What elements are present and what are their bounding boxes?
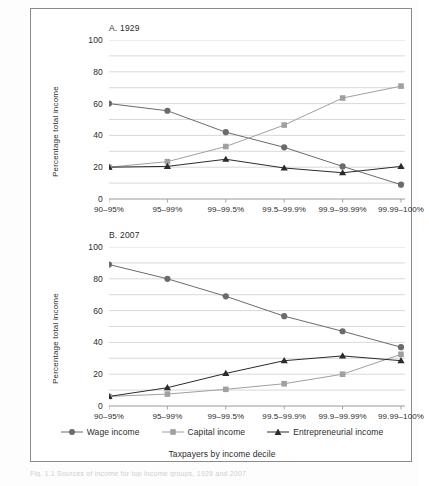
x-tick-label: 95–99% <box>135 412 199 421</box>
data-point <box>398 344 404 350</box>
data-point <box>164 276 170 282</box>
y-tick-label: 0 <box>79 194 103 204</box>
series-line-square <box>109 86 401 167</box>
x-tick-label: 99.9–99.99% <box>311 205 375 214</box>
data-point <box>281 313 287 319</box>
y-tick-label: 100 <box>79 35 103 45</box>
data-point <box>340 371 346 377</box>
data-point <box>397 163 404 169</box>
y-tick-label: 100 <box>79 242 103 252</box>
data-point <box>164 108 170 114</box>
data-point <box>339 352 346 358</box>
legend-item-wage[interactable]: Wage income <box>61 427 140 437</box>
y-tick-label: 20 <box>79 162 103 172</box>
data-point <box>340 328 346 334</box>
x-axis-title: Taxpayers by income decile <box>31 449 413 459</box>
panel-b-title: B. 2007 <box>109 230 140 240</box>
figure-caption: Fig. 1.1 Sources of income for top incom… <box>30 470 412 477</box>
data-point <box>222 156 229 162</box>
data-point <box>281 122 287 128</box>
data-point <box>281 381 287 387</box>
data-point <box>165 391 171 397</box>
panel-b-ylabel: Percentage total income <box>51 293 60 384</box>
x-tick-label: 99.5–99.9% <box>252 205 316 214</box>
panel-a-title: A. 1929 <box>109 23 140 33</box>
data-point <box>223 293 229 299</box>
data-point <box>223 387 229 393</box>
wage-marker-icon <box>61 427 83 437</box>
x-tick-label: 90–95% <box>77 205 141 214</box>
capital-marker-icon <box>162 427 184 437</box>
series-line-circle <box>109 104 401 185</box>
data-point <box>398 83 404 89</box>
y-tick-label: 60 <box>79 99 103 109</box>
x-tick-label: 99–99.5% <box>194 205 258 214</box>
panel-b-plot-area <box>109 247 411 414</box>
data-point <box>340 95 346 101</box>
figure-frame: A. 1929 Percentage total income 10080604… <box>30 8 412 462</box>
y-tick-label: 80 <box>79 67 103 77</box>
x-tick-label: 90–95% <box>77 412 141 421</box>
x-tick-label: 99.9–99.99% <box>311 412 375 421</box>
panel-b-chart-svg <box>109 247 411 414</box>
panel-b: B. 2007 Percentage total income 10080604… <box>31 216 413 416</box>
legend-item-entrepreneurial[interactable]: Entrepreneurial income <box>267 427 383 437</box>
x-tick-label: 99.5–99.9% <box>252 412 316 421</box>
panel-a-plot-area <box>109 40 411 207</box>
y-tick-label: 40 <box>79 130 103 140</box>
panel-a: A. 1929 Percentage total income 10080604… <box>31 9 413 223</box>
x-tick-label: 99.99–100% <box>369 412 429 421</box>
data-point <box>281 144 287 150</box>
entrepreneurial-marker-icon <box>267 427 289 437</box>
data-point <box>223 129 229 135</box>
series-line-circle <box>109 264 401 347</box>
panel-a-chart-svg <box>109 40 411 207</box>
data-point <box>223 144 229 150</box>
series-line-triangle <box>109 159 401 173</box>
y-tick-label: 0 <box>79 401 103 411</box>
legend-label-entrepreneurial: Entrepreneurial income <box>293 427 383 437</box>
x-tick-label: 95–99% <box>135 205 199 214</box>
y-tick-label: 60 <box>79 306 103 316</box>
y-tick-label: 40 <box>79 337 103 347</box>
legend-label-capital: Capital income <box>188 427 246 437</box>
data-point <box>109 261 112 267</box>
legend: Wage income Capital income Entrepreneuri… <box>31 427 413 437</box>
x-tick-label: 99–99.5% <box>194 412 258 421</box>
y-tick-label: 20 <box>79 369 103 379</box>
data-point <box>398 352 404 358</box>
legend-label-wage: Wage income <box>87 427 140 437</box>
data-point <box>398 182 404 188</box>
y-tick-label: 80 <box>79 274 103 284</box>
data-point <box>340 163 346 169</box>
data-point <box>109 101 112 107</box>
panel-a-ylabel: Percentage total income <box>51 86 60 177</box>
x-tick-label: 99.99–100% <box>369 205 429 214</box>
legend-item-capital[interactable]: Capital income <box>162 427 246 437</box>
